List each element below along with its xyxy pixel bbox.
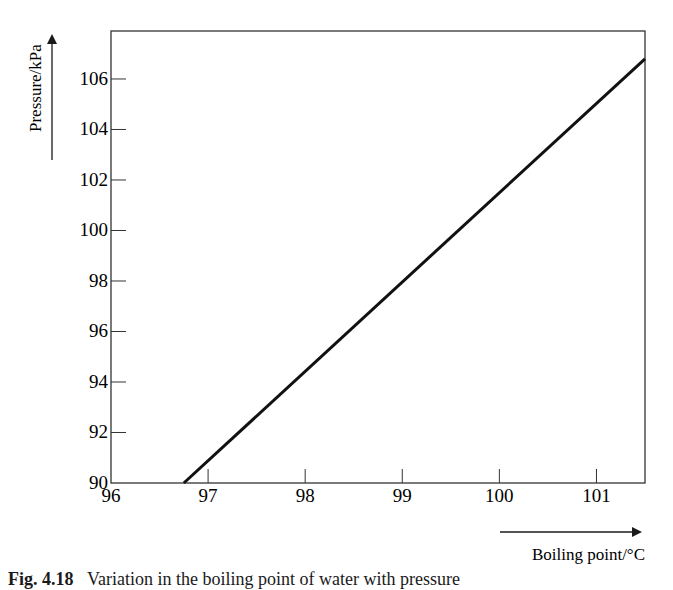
y-tick-label: 96 — [89, 320, 108, 341]
x-tick-label: 98 — [296, 485, 315, 506]
y-tick-label: 102 — [80, 169, 109, 190]
data-line — [184, 59, 645, 483]
x-tick-label: 99 — [393, 485, 412, 506]
y-tick-label: 92 — [89, 421, 108, 442]
x-axis-ticks: 96979899100101 — [102, 469, 611, 506]
y-axis-ticks: 9092949698100102104106 — [80, 68, 127, 493]
y-tick-label: 94 — [89, 371, 109, 392]
figure-caption-text: Variation in the boiling point of water … — [87, 569, 460, 589]
x-tick-label: 97 — [199, 485, 218, 506]
y-tick-label: 104 — [80, 118, 109, 139]
y-tick-label: 98 — [89, 270, 108, 291]
figure-caption: Fig. 4.18 Variation in the boiling point… — [8, 569, 460, 590]
y-tick-label: 106 — [80, 68, 109, 89]
y-tick-label: 100 — [80, 219, 109, 240]
figure-label: Fig. 4.18 — [8, 569, 74, 589]
x-tick-label: 100 — [485, 485, 514, 506]
x-tick-label: 101 — [582, 485, 611, 506]
plot-frame — [111, 31, 645, 483]
y-tick-label: 90 — [89, 472, 108, 493]
x-axis-title: Boiling point/°C — [532, 545, 645, 564]
y-axis-title: Pressure/kPa — [26, 44, 45, 132]
